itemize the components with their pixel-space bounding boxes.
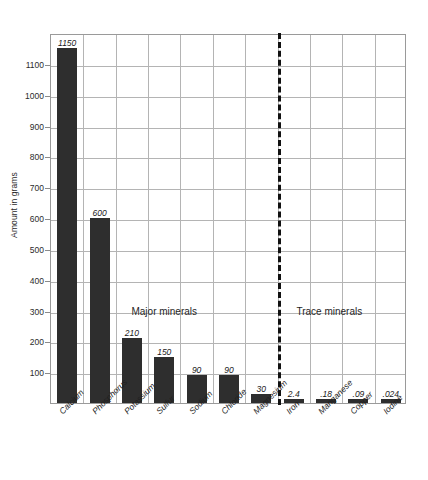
gridline-vertical [116,35,117,403]
bar-value-label: 150 [148,347,180,357]
gridline-vertical [342,35,343,403]
bar-value-label: 1150 [51,38,83,48]
gridline-vertical [310,35,311,403]
gridline-vertical [83,35,84,403]
plot-area: 11506002101509090302.4.18.09.024 Major m… [50,34,406,404]
gridline-vertical [245,35,246,403]
group-annotation-label: Trace minerals [274,306,384,317]
y-axis-tick-label: 300 [4,307,44,317]
y-axis-tick-label: 100 [4,368,44,378]
bar-value-label: 210 [116,328,148,338]
gridline-horizontal [51,158,405,159]
gridline-vertical [213,35,214,403]
y-axis-tick-label: 700 [4,183,44,193]
bar-value-label: 90 [213,365,245,375]
gridline-horizontal [51,128,405,129]
major-trace-divider [278,33,281,405]
gridline-vertical [180,35,181,403]
gridline-vertical [375,35,376,403]
y-axis-tick-label: 1000 [4,91,44,101]
y-axis-tick-label: 900 [4,122,44,132]
bar [90,218,110,403]
gridline-horizontal [51,97,405,98]
y-axis-tick-label: 400 [4,276,44,286]
y-axis-tick-label: 1100 [4,60,44,70]
mineral-amounts-bar-chart: Amount in grams 100200300400500600700800… [0,0,428,480]
y-axis-tick-label: 800 [4,152,44,162]
y-axis-tick-label: 200 [4,337,44,347]
gridline-horizontal [51,66,405,67]
bar-value-label: 90 [180,365,212,375]
y-axis-title: Amount in grams [9,125,19,285]
y-axis-tick-label: 500 [4,245,44,255]
group-annotation-label: Major minerals [109,306,219,317]
bar-value-label: 600 [83,208,115,218]
bar [57,48,77,403]
gridline-horizontal [51,189,405,190]
y-axis-tick-label: 600 [4,214,44,224]
